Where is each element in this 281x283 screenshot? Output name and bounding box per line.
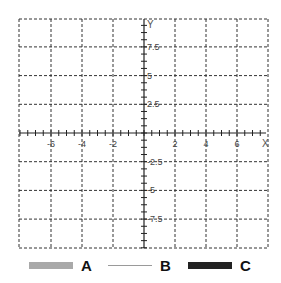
legend-label-a: A bbox=[81, 257, 92, 274]
legend-item-b: B bbox=[108, 255, 171, 275]
svg-text:X: X bbox=[262, 138, 269, 149]
svg-text:4: 4 bbox=[203, 139, 208, 149]
legend-swatch-c bbox=[188, 262, 232, 269]
svg-text:Y: Y bbox=[147, 19, 154, 30]
legend-swatch-b bbox=[108, 265, 152, 266]
svg-text:7.5: 7.5 bbox=[147, 42, 160, 52]
chart-plot-area: -6-4-22467.552.5-2.5-5-7.5XY bbox=[0, 0, 281, 255]
svg-text:-5: -5 bbox=[147, 185, 155, 195]
svg-text:5: 5 bbox=[147, 71, 152, 81]
svg-text:-2.5: -2.5 bbox=[147, 157, 163, 167]
svg-text:2.5: 2.5 bbox=[147, 99, 160, 109]
tick-labels: -6-4-22467.552.5-2.5-5-7.5XY bbox=[47, 19, 269, 224]
legend-label-b: B bbox=[160, 257, 171, 274]
svg-text:-2: -2 bbox=[109, 139, 117, 149]
legend: A B C bbox=[0, 255, 281, 275]
svg-text:-6: -6 bbox=[47, 139, 55, 149]
legend-swatch-a bbox=[29, 262, 73, 269]
axes bbox=[19, 19, 266, 248]
legend-label-c: C bbox=[240, 257, 251, 274]
svg-text:-7.5: -7.5 bbox=[147, 214, 163, 224]
svg-text:6: 6 bbox=[234, 139, 239, 149]
svg-text:2: 2 bbox=[172, 139, 177, 149]
legend-item-a: A bbox=[29, 255, 92, 275]
svg-text:-4: -4 bbox=[78, 139, 86, 149]
legend-item-c: C bbox=[188, 255, 251, 275]
